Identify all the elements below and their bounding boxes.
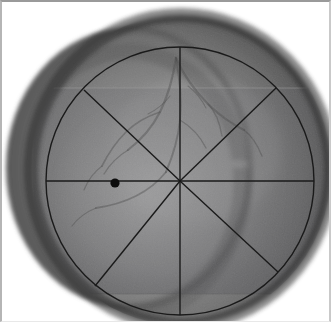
spoke-southwest[interactable] (95, 181, 180, 286)
fundus-image-viewer[interactable] (0, 0, 331, 322)
radial-analysis-grid[interactable] (0, 0, 331, 322)
image-canvas-stage[interactable] (0, 0, 331, 322)
fovea-marker[interactable] (110, 178, 119, 187)
spoke-southeast[interactable] (180, 181, 278, 272)
spoke-northwest[interactable] (84, 90, 180, 181)
spoke-northeast[interactable] (180, 88, 276, 181)
